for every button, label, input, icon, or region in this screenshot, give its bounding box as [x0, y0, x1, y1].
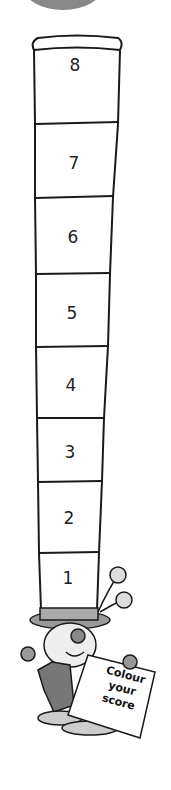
score-cell-2[interactable]: 2: [39, 508, 99, 528]
score-cell-7[interactable]: 7: [44, 153, 104, 173]
score-cell-8[interactable]: 8: [45, 55, 105, 75]
score-cell-3[interactable]: 3: [40, 442, 100, 462]
score-cell-5[interactable]: 5: [42, 303, 102, 323]
score-cell-4[interactable]: 4: [41, 375, 101, 395]
score-cell-1[interactable]: 1: [38, 568, 98, 588]
score-cell-6[interactable]: 6: [43, 227, 103, 247]
score-column-outline: [0, 0, 171, 790]
